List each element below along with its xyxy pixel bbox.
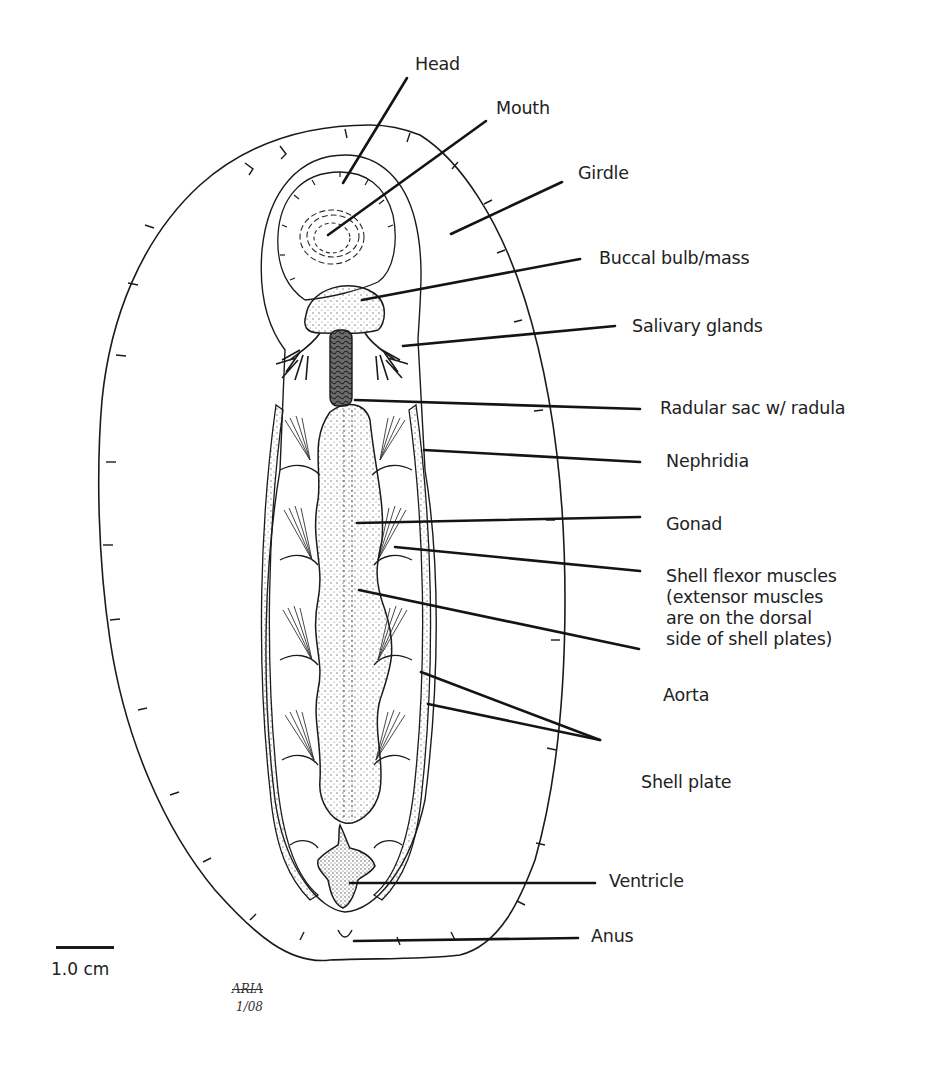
radular-sac-shape — [330, 330, 352, 406]
label-radular-sac: Radular sac w/ radula — [660, 398, 845, 419]
scale-bar-label: 1.0 cm — [51, 959, 109, 979]
label-girdle: Girdle — [578, 163, 629, 184]
label-shell-flexor-muscles: Shell flexor muscles (extensor muscles a… — [666, 566, 837, 650]
chiton-anatomy-diagram — [0, 0, 927, 1075]
gonad-shape — [316, 404, 392, 823]
mouth-shape — [300, 210, 364, 264]
label-shell-plate: Shell plate — [641, 772, 731, 793]
label-salivary-glands: Salivary glands — [632, 316, 763, 337]
label-nephridia: Nephridia — [666, 451, 749, 472]
ventricle-shape — [318, 825, 375, 908]
label-ventricle: Ventricle — [609, 871, 684, 892]
label-buccal-bulb: Buccal bulb/mass — [599, 248, 749, 269]
label-gonad: Gonad — [666, 514, 722, 535]
label-aorta: Aorta — [663, 685, 709, 706]
label-mouth: Mouth — [496, 98, 550, 119]
label-anus: Anus — [591, 926, 633, 947]
signature-date: 1/08 — [236, 1000, 263, 1015]
scale-bar — [56, 946, 114, 949]
label-head: Head — [415, 54, 460, 75]
buccal-bulb-shape — [305, 286, 385, 334]
artist-signature: ARIA — [232, 982, 263, 997]
